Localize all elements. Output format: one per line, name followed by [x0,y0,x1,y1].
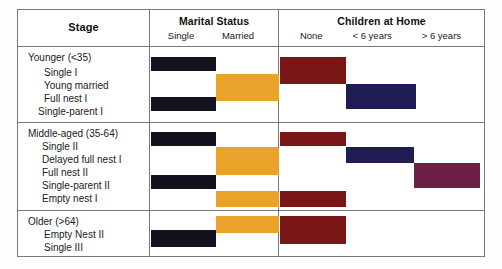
header-subs-children-at-home: None < 6 years > 6 years [279,27,484,41]
matrix-table: Stage Marital Status Single Married Chil… [17,9,485,257]
bar-single-black-2 [151,97,216,111]
section-older: Older (>64)Empty Nest IISingle III [18,211,484,257]
bar-married-orange [216,216,279,233]
bar-married-orange [216,147,279,175]
header-sub-single: Single [168,30,194,41]
bar-single-black [151,57,216,71]
bar-single-black [151,230,216,247]
section-middle-aged: Middle-aged (35-64)Single IIDelayed full… [18,123,484,210]
section-middle-aged-bars [18,123,484,210]
header-sub-married: Married [222,30,254,41]
header-title-children-at-home: Children at Home [279,10,484,27]
header-subs-marital-status: Single Married [150,27,278,41]
header-cell-children-at-home: Children at Home None < 6 years > 6 year… [279,10,484,46]
table-header: Stage Marital Status Single Married Chil… [18,10,484,46]
bar-under6-navy [346,147,414,163]
section-younger-bars [18,47,484,122]
section-younger: Younger (<35)Single IYoung marriedFull n… [18,47,484,122]
header-title-stage: Stage [18,10,149,33]
section-older-bars [18,211,484,257]
bar-none-darkred [280,57,346,84]
bar-single-black [151,132,216,146]
bar-none-darkred [280,216,346,244]
header-cell-stage: Stage [18,10,149,46]
bar-none-darkred-2 [280,191,346,207]
header-sub-under-6-years: < 6 years [353,30,392,41]
bar-under6-navy [346,84,416,109]
bar-none-darkred [280,132,346,146]
bar-married-orange-2 [216,191,279,207]
header-cell-marital-status: Marital Status Single Married [150,10,278,46]
bar-over6-purple [414,163,480,188]
family-life-cycle-figure: Stage Marital Status Single Married Chil… [0,0,502,269]
header-sub-over-6-years: > 6 years [422,30,461,41]
bar-single-black-2 [151,175,216,189]
header-title-marital-status: Marital Status [150,10,278,27]
bar-married-orange [216,74,279,101]
header-sub-none: None [300,30,323,41]
